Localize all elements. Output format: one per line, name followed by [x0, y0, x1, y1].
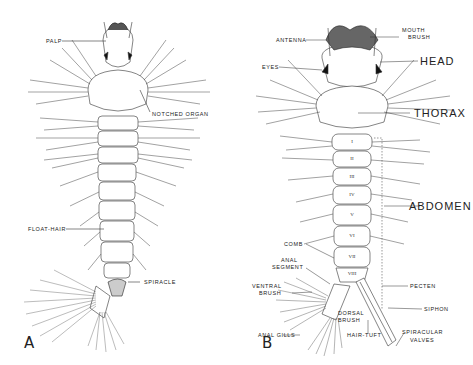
- panel-label-a: A: [24, 334, 34, 352]
- label-thorax: THORAX: [414, 107, 466, 119]
- larva-illustrations: [0, 0, 473, 365]
- label-head: HEAD: [420, 55, 455, 67]
- segment-numeral-4: IV: [342, 192, 362, 197]
- label-pecten: PECTEN: [410, 283, 436, 289]
- label-spiracular-valves-line2: VALVES: [410, 337, 434, 343]
- segment-numeral-5: V: [342, 212, 362, 217]
- label-palp: PALP: [46, 38, 62, 44]
- label-eyes: EYES: [262, 64, 279, 70]
- segment-numeral-3: III: [342, 174, 362, 179]
- segment-numeral-6: VI: [342, 233, 362, 238]
- label-notched-organ: NOTCHED ORGAN: [152, 111, 209, 117]
- label-ventral-brush-line2: BRUSH: [259, 290, 281, 296]
- label-dorsal-brush-line2: BRUSH: [338, 317, 360, 323]
- segment-numeral-1: I: [342, 139, 362, 144]
- label-spiracle: SPIRACLE: [144, 279, 176, 285]
- label-ventral-brush-line1: VENTRAL: [252, 283, 282, 289]
- panel-label-b: B: [262, 334, 272, 352]
- label-float-hair: FLOAT-HAIR: [28, 226, 66, 232]
- label-antenna: ANTENNA: [276, 37, 306, 43]
- label-siphon: SIPHON: [424, 306, 449, 312]
- label-hair-tuft: HAIR-TUFT: [347, 332, 381, 338]
- segment-numeral-2: II: [342, 156, 362, 161]
- mosquito-larva-diagram: PALP NOTCHED ORGAN FLOAT-HAIR SPIRACLE A…: [0, 0, 473, 365]
- segment-numeral-8: VIII: [342, 271, 362, 276]
- label-abdomen: ABDOMEN: [409, 200, 472, 212]
- label-spiracular-valves-line1: SPIRACULAR: [402, 329, 443, 335]
- label-anal-segment-line1: ANAL: [281, 257, 298, 263]
- label-anal-segment-line2: SEGMENT: [272, 264, 303, 270]
- segment-numeral-7: VII: [342, 254, 362, 259]
- label-comb: COMB: [284, 241, 303, 247]
- label-mouth-brush-line2: BRUSH: [408, 34, 430, 40]
- label-dorsal-brush-line1: DORSAL: [338, 310, 364, 316]
- label-mouth-brush-line1: MOUTH: [402, 27, 425, 33]
